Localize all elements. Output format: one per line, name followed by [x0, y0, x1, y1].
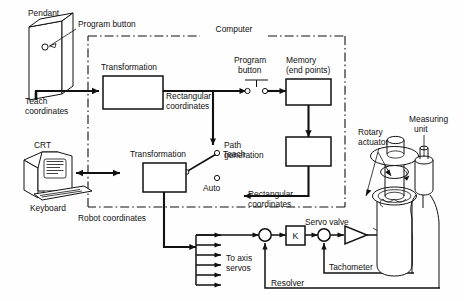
figure-canvas: Computer Pendant Program button Teach co… — [0, 0, 464, 301]
program-button-switch[interactable] — [245, 80, 286, 94]
auto-switch-label: Auto — [203, 183, 221, 193]
junction1-to-gain-wire — [271, 232, 286, 237]
to-axis-servos-line1: To axis — [226, 253, 252, 263]
gain-to-junction2-wire — [305, 232, 318, 237]
measuring-unit-line2: unit — [414, 124, 428, 134]
measuring-unit-cabling — [411, 195, 439, 288]
rectangular-coordinates-1-line2: coordinates — [166, 101, 209, 111]
memory-label-line2: (end points) — [286, 65, 330, 75]
keyboard-label: Keyboard — [30, 203, 66, 213]
memory-end-points-block[interactable] — [286, 79, 331, 105]
rotary-actuator-line2: actuator — [358, 137, 388, 147]
tachometer-label: Tachometer — [329, 262, 373, 272]
servo-valve-label: Servo valve — [305, 217, 349, 227]
program-button-switch-label-line1: Program — [234, 55, 266, 65]
to-axis-servos-line2: servos — [226, 263, 251, 273]
summing-junction-2 — [318, 229, 330, 241]
transformation-1-block[interactable] — [103, 76, 163, 109]
auto-contact[interactable] — [214, 175, 219, 180]
rectangular-coordinates-1-line1: Rectangular — [166, 91, 211, 101]
pendant — [29, 13, 73, 100]
transformation-2-block[interactable] — [143, 163, 186, 192]
measuring-unit-line1: Measuring — [409, 114, 448, 124]
resolver-label: Resolver — [271, 278, 304, 288]
transformation-1-label: Transformation — [101, 62, 157, 72]
program-button-top-label: Program button — [78, 19, 136, 29]
to-axis-servos-fan — [196, 232, 221, 287]
summing-junction-1 — [259, 229, 271, 241]
crt-terminal — [24, 152, 92, 200]
junction2-to-amplifier-wire — [330, 232, 344, 237]
pendant-program-button[interactable] — [42, 44, 48, 50]
gain-k-label: K — [292, 231, 298, 241]
path-generation-block[interactable] — [286, 137, 331, 166]
robot-coordinates-label: Robot coordinates — [78, 213, 146, 223]
rectangular-coordinates-2-line2: coordinates — [248, 199, 291, 209]
teach-coordinates-label-line2: coordinates — [25, 106, 68, 116]
servo-forward-path — [196, 232, 259, 237]
teach-switch-label: Teach — [223, 149, 246, 159]
program-button-switch-label-line2: button — [238, 65, 262, 75]
memory-label-line1: Memory — [286, 55, 317, 65]
computer-label: Computer — [216, 24, 253, 34]
robot-coordinates-wire — [164, 192, 196, 250]
rotary-actuator-line1: Rotary — [358, 127, 383, 137]
rectangular-coordinates-2-line1: Rectangular — [248, 189, 293, 199]
robot-control-block-diagram: Computer Pendant Program button Teach co… — [0, 0, 464, 301]
crt-bidirectional-link — [76, 170, 120, 176]
pendant-label: Pendant — [28, 8, 60, 18]
crt-label: CRT — [34, 140, 51, 150]
transformation-2-label: Transformation — [130, 149, 186, 159]
teach-coordinates-label-line1: Teach — [25, 96, 48, 106]
memory-to-path-generation-wire — [305, 105, 311, 137]
